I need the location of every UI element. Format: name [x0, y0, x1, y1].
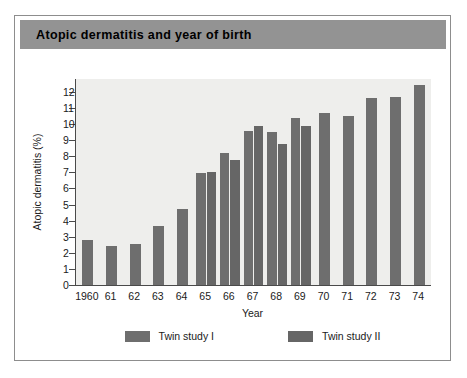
bar-twin-study-i — [343, 116, 354, 285]
x-axis-tick-label: 65 — [199, 290, 211, 302]
y-axis-title: Atopic dermatitis (%) — [30, 79, 44, 285]
x-axis-title: Year — [75, 307, 430, 319]
chart-legend: Twin study ITwin study II — [75, 330, 430, 342]
plot-inner — [76, 79, 431, 285]
figure-container: Atopic dermatitis and year of birth Atop… — [0, 0, 467, 378]
bar-twin-study-i — [196, 173, 206, 285]
bar-twin-study-i — [153, 226, 164, 285]
x-axis-tick-label: 70 — [318, 290, 330, 302]
legend-item: Twin study II — [288, 330, 380, 342]
legend-swatch — [125, 331, 150, 342]
bar-twin-study-ii — [301, 126, 311, 285]
legend-item: Twin study I — [125, 330, 214, 342]
bar-twin-study-i — [82, 240, 93, 285]
x-axis-tick-label: 63 — [152, 290, 164, 302]
bar-twin-study-ii — [207, 172, 217, 285]
x-axis-tick-label: 62 — [128, 290, 140, 302]
y-axis-tick — [69, 221, 76, 222]
y-axis-tick — [69, 188, 76, 189]
bar-twin-study-i — [267, 132, 277, 285]
y-axis-tick — [69, 253, 76, 254]
x-axis-tick-label: 71 — [341, 290, 353, 302]
bar-twin-study-i — [177, 209, 188, 285]
y-axis-tick — [69, 285, 76, 286]
x-axis-tick-label: 66 — [223, 290, 235, 302]
y-axis-tick — [69, 205, 76, 206]
legend-label: Twin study II — [322, 330, 380, 342]
x-axis-tick-label: 69 — [294, 290, 306, 302]
bar-twin-study-i — [414, 85, 425, 285]
x-axis-tick-label: 74 — [412, 290, 424, 302]
legend-swatch — [288, 331, 313, 342]
bar-twin-study-ii — [278, 144, 288, 285]
legend-label: Twin study I — [159, 330, 214, 342]
y-axis-tick — [69, 237, 76, 238]
x-axis-tick-label: 68 — [270, 290, 282, 302]
bar-twin-study-i — [319, 113, 330, 285]
bar-twin-study-i — [106, 246, 117, 285]
bar-twin-study-i — [130, 244, 141, 285]
bar-twin-study-i — [244, 131, 254, 286]
x-axis-tick-label: 1960 — [75, 290, 98, 302]
x-axis-tick-label: 61 — [105, 290, 117, 302]
figure-title-bar: Atopic dermatitis and year of birth — [20, 20, 446, 49]
y-axis-tick — [69, 156, 76, 157]
y-axis-tick — [69, 140, 76, 141]
y-axis-tick — [69, 172, 76, 173]
page-title: Atopic dermatitis and year of birth — [20, 28, 252, 42]
bar-twin-study-i — [220, 153, 230, 285]
bar-twin-study-i — [366, 98, 377, 285]
x-axis-tick-label: 64 — [176, 290, 188, 302]
x-axis-tick-label: 73 — [389, 290, 401, 302]
x-axis-tick-label: 67 — [247, 290, 259, 302]
x-axis-tick-label: 72 — [365, 290, 377, 302]
bar-twin-study-i — [390, 97, 401, 285]
bar-twin-study-ii — [230, 160, 240, 285]
plot-area — [75, 79, 431, 286]
y-axis-tick — [69, 269, 76, 270]
bar-twin-study-i — [291, 118, 301, 285]
bar-twin-study-ii — [254, 126, 264, 285]
